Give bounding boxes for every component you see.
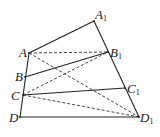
label-D: D [8, 110, 19, 125]
vertex-D [19, 116, 21, 118]
vertex-A [28, 52, 30, 54]
segment-A-D1 [29, 53, 139, 117]
segment-A-A1 [29, 21, 94, 53]
label-C1: C1 [127, 81, 140, 97]
segment-A1-D1 [94, 21, 139, 117]
label-B1: B1 [110, 45, 122, 61]
vertex-B1 [107, 51, 109, 53]
solid-edges [20, 21, 139, 117]
label-D1: D1 [139, 110, 153, 126]
vertex-B [24, 76, 26, 78]
segment-C-D1 [23, 95, 139, 117]
geometry-diagram: ABCDA1B1C1D1 [0, 0, 160, 137]
segment-B-B1 [25, 52, 108, 77]
segment-A-B1 [29, 52, 108, 53]
dashed-edges [23, 52, 139, 117]
label-A1: A1 [94, 7, 107, 23]
vertex-A1 [93, 20, 95, 22]
segment-C-C1 [23, 88, 125, 95]
vertex-D1 [138, 116, 140, 118]
vertex-C [22, 94, 24, 96]
vertex-C1 [124, 87, 126, 89]
label-A: A [18, 45, 27, 60]
vertex-labels: ABCDA1B1C1D1 [8, 7, 153, 126]
label-B: B [15, 69, 23, 84]
segment-A-D [20, 53, 29, 117]
label-C: C [11, 88, 20, 103]
